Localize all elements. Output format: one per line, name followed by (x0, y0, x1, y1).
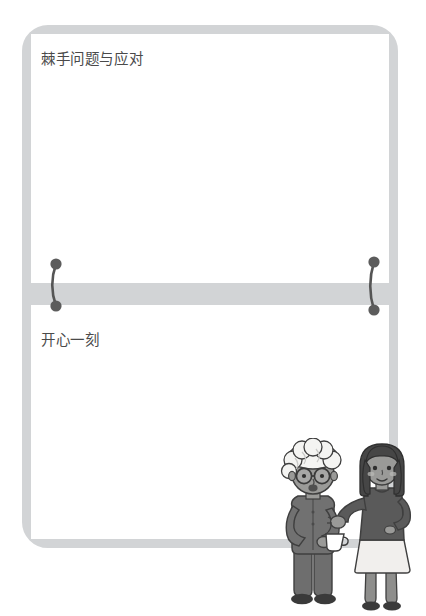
section-top-panel[interactable] (31, 34, 389, 283)
binder-ring-left (44, 256, 74, 314)
section-top-label: 棘手问题与应对 (41, 52, 143, 67)
divider-band (22, 283, 398, 305)
section-bottom-label: 开心一刻 (41, 333, 99, 348)
two-people-conversation-illustration (262, 438, 426, 616)
page-canvas: 棘手问题与应对 开心一刻 (0, 0, 426, 616)
binder-ring-right (360, 256, 390, 314)
young-woman-figure (327, 444, 410, 611)
